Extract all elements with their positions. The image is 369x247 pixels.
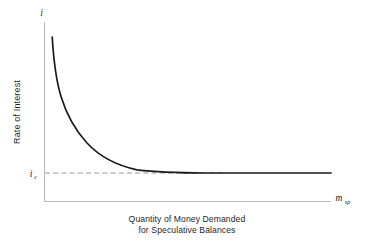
x-axis-caption-line-1: Quantity of Money Demanded — [129, 214, 246, 224]
y-axis-tip-label: i — [40, 8, 43, 18]
critical-rate-label: i — [30, 169, 33, 179]
x-axis-caption-line-2: for Speculative Balances — [139, 225, 236, 235]
critical-rate-label-subscript: c — [34, 174, 37, 180]
speculative-money-demand-curve — [52, 37, 331, 173]
x-axis-tip-label-subscript: sp — [345, 199, 350, 205]
money-demand-chart: i i c m sp Rate of Interest Quantity of … — [0, 0, 369, 247]
y-axis-title: Rate of Interest — [12, 80, 22, 144]
x-axis-tip-label: m — [336, 193, 343, 203]
